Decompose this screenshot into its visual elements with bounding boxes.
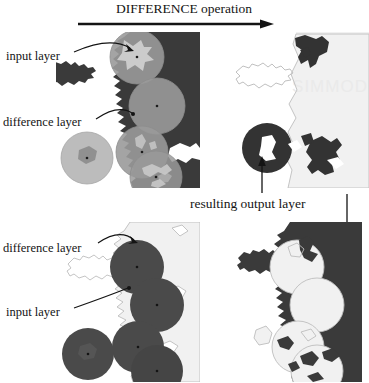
label-resulting-output-layer: resulting output layer [190, 196, 306, 211]
output-result-circle-top[interactable] [242, 123, 292, 173]
difference-operation-figure: DIFFERENCE operation [0, 0, 369, 383]
watermark-text: SIMMOD [292, 77, 368, 96]
figure-title: DIFFERENCE operation [116, 1, 252, 16]
figure-root: DIFFERENCE operation [0, 0, 369, 383]
label-difference-layer-top: difference layer [3, 115, 82, 129]
leader-endpoint [127, 286, 131, 290]
leader-endpoint [131, 112, 135, 116]
output-panel-top[interactable]: SIMMOD [225, 32, 369, 188]
output-panel-bottom[interactable] [225, 222, 369, 383]
label-input-layer-bottom: input layer [6, 305, 61, 319]
operation-arrow [78, 19, 274, 28]
label-difference-layer-bottom: difference layer [3, 241, 82, 255]
label-input-layer-top: input layer [6, 49, 61, 63]
